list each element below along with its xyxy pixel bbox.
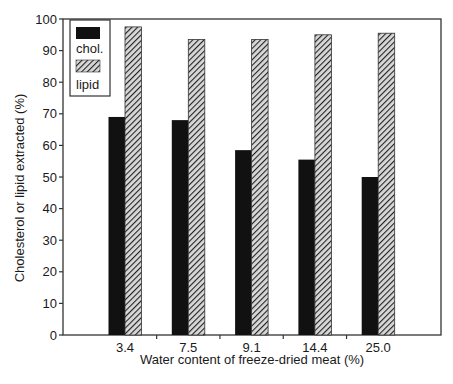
y-tick-label: 100 [35, 12, 57, 27]
y-tick-label: 50 [43, 170, 57, 185]
y-tick-label: 30 [43, 233, 57, 248]
y-axis: 0102030405060708090100 [35, 12, 63, 343]
bar-chol [362, 177, 379, 335]
y-tick-label: 40 [43, 201, 57, 216]
legend-swatch-chol [76, 27, 100, 39]
y-tick-label: 80 [43, 75, 57, 90]
bar-chol [298, 160, 315, 335]
bar-lipid [252, 40, 269, 335]
x-axis-title: Water content of freeze-dried meat (%) [140, 352, 364, 367]
bar-lipid [315, 35, 332, 335]
y-tick-label: 10 [43, 296, 57, 311]
y-tick-label: 20 [43, 264, 57, 279]
bars [109, 27, 395, 335]
x-tick-label: 25.0 [366, 340, 391, 355]
bar-chol [109, 117, 126, 335]
y-tick-label: 90 [43, 43, 57, 58]
y-tick-label: 60 [43, 138, 57, 153]
legend-swatch-lipid [76, 60, 100, 72]
bar-lipid [125, 27, 142, 335]
y-axis-title: Cholesterol or lipid extracted (%) [12, 94, 27, 283]
bar-lipid [378, 33, 395, 335]
y-tick-label: 0 [50, 328, 57, 343]
bar-chol [235, 150, 252, 335]
y-tick-label: 70 [43, 106, 57, 121]
bar-lipid [188, 40, 205, 335]
legend: chol. lipid [70, 20, 110, 96]
x-tick-label: 3.4 [116, 340, 134, 355]
legend-label-lipid: lipid [76, 77, 99, 92]
bar-chol [172, 120, 189, 335]
legend-label-chol: chol. [76, 41, 103, 56]
bar-chart: 0102030405060708090100 3.47.59.114.425.0… [0, 0, 453, 384]
